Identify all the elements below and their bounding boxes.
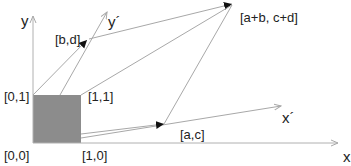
point-bd-label: [b,d] (55, 33, 80, 46)
point-01-label: [0,1] (4, 90, 29, 103)
unit-square (33, 95, 81, 143)
point-10-label: [1,0] (82, 149, 107, 162)
point-00-label: [0,0] (4, 149, 29, 162)
x-prime-axis-label: x´ (282, 110, 295, 125)
y-prime-axis-label: y´ (108, 14, 121, 29)
x-axis-label: x (343, 149, 351, 164)
point-ac-label: [a,c] (180, 128, 205, 141)
y-axis-label: y (21, 13, 29, 28)
point-sum-label: [a+b, c+d] (240, 11, 298, 24)
vector-ac (81, 124, 164, 134)
y-prime-axis (60, 12, 107, 95)
transformation-diagram (0, 0, 351, 166)
point-11-label: [1,1] (88, 90, 113, 103)
vector-bd (33, 40, 87, 95)
edge-ac-to-sum (164, 5, 232, 124)
